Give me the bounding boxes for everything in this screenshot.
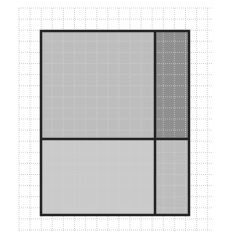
region-bottom-right [155, 139, 189, 215]
grid-figure [0, 0, 225, 247]
region-top-right [155, 31, 189, 139]
region-bottom-left [41, 139, 155, 215]
region-top-left [41, 31, 155, 139]
